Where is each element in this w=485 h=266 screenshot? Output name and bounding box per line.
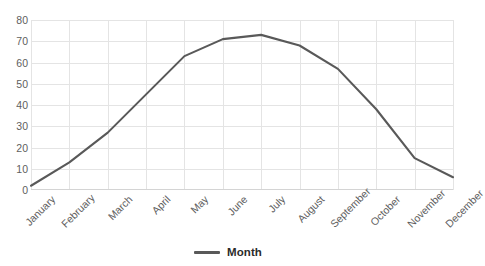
legend-line-swatch-icon (194, 251, 220, 254)
chart-legend: Month (0, 246, 456, 258)
x-axis-tick-label: July (251, 193, 288, 230)
x-axis-tick-label: October (366, 193, 403, 230)
x-axis-tick-text: August (294, 193, 326, 225)
x-axis-tick-text: May (188, 193, 211, 216)
x-axis-tick-text: April (149, 193, 172, 216)
x-axis-tick-label: September (328, 193, 365, 230)
gridline-vertical (453, 20, 454, 190)
y-axis-tick-label: 50 (2, 79, 28, 90)
y-axis-tick-label: 0 (2, 185, 28, 196)
x-axis-tick-text: June (225, 193, 250, 218)
x-axis-tick-text: January (23, 193, 58, 228)
x-axis-tick-label: December (443, 193, 480, 230)
x-axis-tick-label: August (289, 193, 326, 230)
legend-item-label: Month (227, 246, 262, 258)
y-axis-tick-label: 30 (2, 121, 28, 132)
x-axis-tick-text: October (368, 193, 403, 228)
y-axis: 80 70 60 50 40 30 20 10 0 (0, 20, 28, 190)
x-axis-tick-label: April (136, 193, 173, 230)
x-axis-tick-text: September (328, 185, 373, 230)
y-axis-tick-label: 70 (2, 36, 28, 47)
plot-area (31, 20, 453, 190)
x-axis-tick-text: December (443, 187, 485, 230)
x-axis-tick-label: March (97, 193, 134, 230)
y-axis-tick-label: 60 (2, 57, 28, 68)
series-month-line (31, 20, 453, 190)
x-axis-tick-label: May (174, 193, 211, 230)
x-axis: January February March April May June Ju… (31, 191, 453, 247)
y-axis-tick-label: 40 (2, 100, 28, 111)
x-axis-tick-text: July (266, 193, 288, 215)
x-axis-tick-label: June (213, 193, 250, 230)
x-axis-tick-label: January (21, 193, 58, 230)
x-axis-tick-label: November (404, 193, 441, 230)
x-axis-tick-label: February (59, 193, 96, 230)
y-axis-tick-label: 10 (2, 164, 28, 175)
y-axis-tick-label: 80 (2, 15, 28, 26)
x-axis-tick-text: March (105, 193, 134, 222)
y-axis-tick-label: 20 (2, 142, 28, 153)
x-axis-tick-text: February (59, 192, 97, 230)
x-axis-tick-text: November (404, 187, 447, 230)
